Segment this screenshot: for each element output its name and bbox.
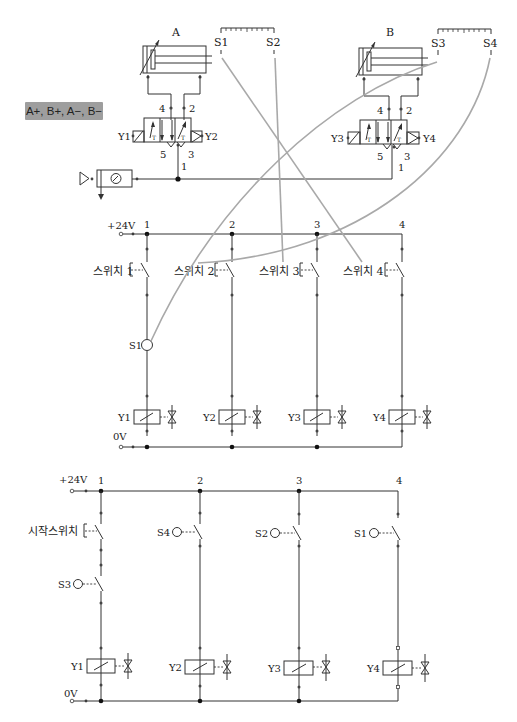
s1-label: S1: [214, 36, 229, 49]
svg-text:Y2: Y2: [204, 131, 218, 142]
rung-2: 스위치 2 Y2: [174, 234, 261, 436]
svg-text:Y2: Y2: [202, 412, 216, 423]
svg-text:2: 2: [406, 105, 412, 116]
link-s1-to-switch4: [222, 58, 362, 262]
svg-text:5: 5: [160, 149, 166, 160]
circuit-2: +24V 1 2 3 4 시작스위치 S3: [28, 474, 429, 703]
service-unit: [80, 145, 392, 200]
svg-text:3: 3: [296, 475, 302, 486]
scale-s3-s4: S3 S4: [431, 29, 498, 55]
svg-text:Y4: Y4: [372, 412, 386, 423]
svg-text:2: 2: [189, 103, 195, 114]
svg-text:S1: S1: [354, 528, 367, 539]
svg-text:S3: S3: [431, 37, 446, 50]
switch-3-label: 스위치 3: [259, 265, 300, 278]
svg-text:S3: S3: [58, 579, 71, 590]
cylinder-b: B: [356, 26, 428, 120]
svg-text:4: 4: [159, 103, 165, 114]
svg-text:3: 3: [314, 219, 320, 230]
svg-text:5: 5: [377, 151, 383, 162]
svg-text:1: 1: [144, 219, 150, 230]
cylinder-a: A: [140, 26, 212, 120]
electro-pneumatic-diagram: A S1 S2 4 2: [0, 0, 517, 722]
switch-2-label: 스위치 2: [174, 265, 215, 278]
start-switch-label: 시작스위치: [28, 525, 78, 538]
svg-text:B: B: [386, 26, 394, 39]
svg-text:Y3: Y3: [330, 133, 344, 144]
s1-sensor-label: S1: [129, 340, 142, 351]
svg-text:Y4: Y4: [422, 133, 436, 144]
svg-text:T: T: [367, 136, 371, 143]
svg-text:T: T: [152, 134, 156, 141]
svg-text:Y1: Y1: [117, 412, 131, 423]
rung-2: S4 Y2: [157, 491, 231, 700]
svg-text:Y2: Y2: [168, 662, 182, 673]
svg-text:T: T: [397, 136, 401, 143]
rung-3: 스위치 3 Y3: [259, 234, 346, 436]
svg-text:4: 4: [396, 475, 402, 486]
svg-text:2: 2: [197, 475, 203, 486]
link-s4-to-switch2: [198, 58, 490, 263]
svg-text:0V: 0V: [64, 688, 78, 699]
rung-3: S2 Y3: [255, 491, 330, 701]
svg-text:1: 1: [398, 162, 404, 173]
valve-y3-y4: 4 2 T T Y3 Y4 5 3 1: [330, 105, 436, 173]
svg-text:4: 4: [377, 105, 383, 116]
svg-text:Y4: Y4: [366, 663, 380, 674]
svg-text:0V: 0V: [113, 431, 127, 442]
svg-text:S4: S4: [157, 527, 170, 538]
svg-text:T: T: [181, 134, 185, 141]
rung-4: S1 Y4: [354, 513, 429, 702]
svg-text:3: 3: [404, 151, 410, 162]
cylinder-a-label: A: [171, 26, 181, 39]
s2-label: S2: [266, 36, 281, 49]
svg-text:2: 2: [229, 219, 235, 230]
switch-1-label: 스위치 1: [93, 265, 134, 278]
valve-y1-y2: 4 2 T T Y1 Y2 5 3 1: [117, 103, 218, 179]
svg-text:S4: S4: [483, 37, 498, 50]
svg-text:3: 3: [188, 149, 194, 160]
svg-text:1: 1: [98, 475, 104, 486]
rung-4: 스위치 4 Y4: [343, 248, 431, 437]
svg-text:+24V: +24V: [59, 474, 88, 485]
rung-1: 스위치 1 S1 Y1: [93, 234, 176, 436]
svg-text:Y1: Y1: [117, 131, 131, 142]
svg-text:Y3: Y3: [267, 663, 281, 674]
sensor-links: [151, 58, 490, 341]
switch-4-label: 스위치 4: [343, 265, 384, 278]
svg-text:1: 1: [181, 161, 187, 172]
circuit-1: +24V 1 2 3 4 스위치 1 S1 Y1: [93, 219, 431, 449]
svg-text:Y1: Y1: [70, 661, 84, 672]
svg-text:+24V: +24V: [107, 220, 136, 231]
scale-s1-s2: S1 S2: [214, 28, 281, 54]
svg-text:Y3: Y3: [287, 412, 301, 423]
svg-text:4: 4: [399, 219, 405, 230]
rung-1: 시작스위치 S3 Y1: [28, 491, 132, 700]
svg-text:S2: S2: [255, 528, 268, 539]
